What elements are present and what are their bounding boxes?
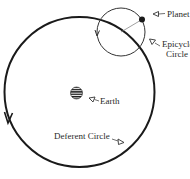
planet-dot-icon xyxy=(139,17,145,23)
planet-label: Planet xyxy=(167,9,190,19)
epicycle-label-line2: Circle xyxy=(166,49,188,59)
earth-icon xyxy=(71,87,83,99)
planet-pointer-icon xyxy=(153,12,165,17)
epicycle-diagram: Planet Epicycle Circle Earth Deferent Ci… xyxy=(0,0,190,179)
deferent-label: Deferent Circle xyxy=(54,131,110,141)
earth-pointer-icon xyxy=(89,97,99,102)
epicycle-pointer-icon xyxy=(150,39,161,46)
epicycle-radius-line xyxy=(121,20,142,33)
earth-label: Earth xyxy=(100,96,120,106)
epicycle-label-line1: Epicycle xyxy=(162,39,190,49)
deferent-pointer-icon xyxy=(112,139,124,145)
